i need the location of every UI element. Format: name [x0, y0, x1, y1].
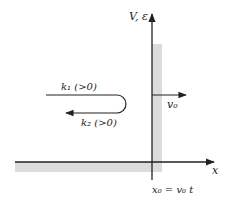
moving-wall-reflection-diagram: V, ε x x₀ = v₀ t v₀ k₁ (>0) k₂ (>0): [0, 0, 231, 207]
wave-reflection-path: [46, 95, 126, 113]
x-axis-label: x: [212, 164, 219, 177]
origin-label: x₀ = v₀ t: [152, 184, 194, 195]
y-axis-label: V, ε: [129, 10, 148, 23]
floor-shade: [15, 162, 162, 172]
wall-velocity-label: v₀: [167, 98, 178, 111]
wall-shade: [152, 44, 162, 172]
reflected-wave-label: k₂ (>0): [81, 117, 117, 128]
diagram-canvas: V, ε x x₀ = v₀ t v₀ k₁ (>0) k₂ (>0): [0, 0, 231, 207]
incident-wave-label: k₁ (>0): [61, 81, 97, 92]
